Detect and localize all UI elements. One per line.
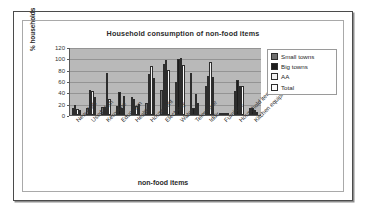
y-axis-title: % households <box>29 8 36 51</box>
legend-swatch-icon <box>271 63 278 70</box>
bar-group <box>217 48 232 115</box>
legend-item: Big towns <box>271 63 333 70</box>
chart-title: Household consumption of non-food items <box>23 29 343 38</box>
legend-item: Small towns <box>271 53 333 60</box>
legend-item: AA <box>271 73 333 80</box>
chart-legend: Small townsBig townsAATotal <box>267 49 337 95</box>
x-axis-tick-labels: New clothUsed clothKeroseneEducationHeal… <box>69 117 261 179</box>
y-axis-tick-60: 60 <box>58 79 65 85</box>
x-axis-title: non-food items <box>63 179 263 186</box>
bar <box>241 86 243 115</box>
legend-label: Total <box>281 84 294 91</box>
legend-item: Total <box>271 84 333 91</box>
legend-swatch-icon <box>271 84 278 91</box>
legend-swatch-icon <box>271 73 278 80</box>
inner-frame: Household consumption of non-food items … <box>22 20 344 192</box>
y-axis-tick-0: 0 <box>62 113 65 119</box>
y-axis-tick-40: 40 <box>58 90 65 96</box>
bar-group <box>187 48 202 115</box>
bar-group <box>143 48 158 115</box>
y-axis-tick-20: 20 <box>58 102 65 108</box>
bar <box>153 78 155 115</box>
y-axis-tick-80: 80 <box>58 68 65 74</box>
outer-frame: Household consumption of non-food items … <box>13 11 353 201</box>
chart-page: Household consumption of non-food items … <box>0 0 367 213</box>
legend-swatch-icon <box>271 53 278 60</box>
legend-label: Big towns <box>281 63 308 70</box>
y-axis-tick-120: 120 <box>55 45 65 51</box>
legend-label: Small towns <box>281 53 314 60</box>
y-axis-tick-labels: 020406080100120 <box>45 43 67 121</box>
legend-label: AA <box>281 73 289 80</box>
y-axis-tick-100: 100 <box>55 56 65 62</box>
bar-group <box>69 48 84 115</box>
